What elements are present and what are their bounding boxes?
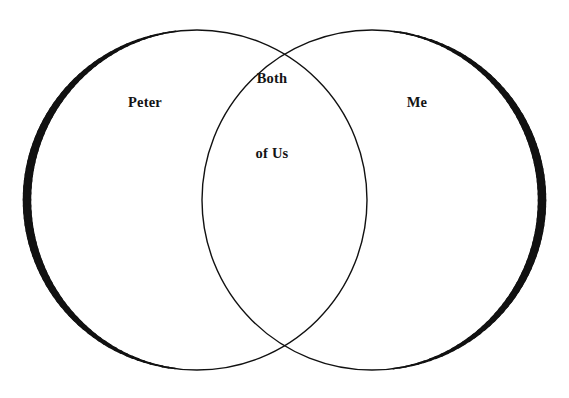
venn-label-right-set-text: Me [407,90,428,115]
venn-diagram-page: Peter Both of Us Me [0,0,569,398]
venn-label-right-set: Me [407,40,428,165]
venn-label-left-set-text: Peter [128,90,162,115]
left-circle-group [27,30,367,370]
venn-label-left-set: Peter [128,40,162,165]
venn-label-intersection-line1: Both [256,66,289,91]
venn-label-intersection: Both of Us [256,16,289,216]
right-circle-group [202,30,542,370]
venn-label-intersection-line2: of Us [256,141,289,166]
